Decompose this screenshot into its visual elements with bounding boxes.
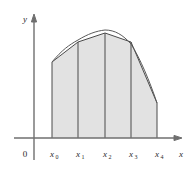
x-axis-arrowhead — [174, 135, 182, 140]
origin-label: 0 — [23, 149, 28, 159]
tick-label-x2-base: x — [102, 149, 107, 159]
y-axis-arrowhead — [31, 14, 36, 22]
tick-label-x4-sub: 4 — [161, 154, 164, 160]
tick-label-x2: x 2 — [102, 149, 112, 160]
tick-label-x1: x 1 — [75, 149, 85, 160]
tick-label-x4: x 4 — [154, 149, 164, 160]
y-axis-label: y — [22, 14, 27, 24]
tick-label-x0-sub: 0 — [56, 154, 59, 160]
trapezoidal-rule-figure: y x 0 x 0 x 1 x 2 x 3 x 4 — [0, 0, 196, 172]
tick-label-x3: x 3 — [128, 149, 138, 160]
tick-label-x2-sub: 2 — [109, 154, 112, 160]
tick-label-x4-base: x — [154, 149, 159, 159]
tick-label-x0: x 0 — [49, 149, 59, 160]
figure-root: y x 0 x 0 x 1 x 2 x 3 x 4 — [0, 0, 196, 172]
tick-label-x0-base: x — [49, 149, 54, 159]
x-axis-label: x — [178, 149, 183, 159]
tick-label-x1-sub: 1 — [82, 154, 85, 160]
tick-label-x3-base: x — [128, 149, 133, 159]
tick-label-x3-sub: 3 — [135, 154, 138, 160]
tick-label-x1-base: x — [75, 149, 80, 159]
